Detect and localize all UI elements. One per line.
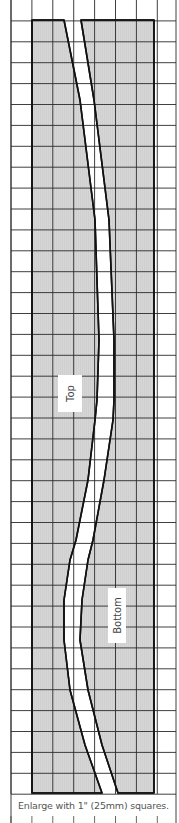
bottom-label-text: Bottom (112, 597, 123, 634)
pattern-diagram (0, 0, 179, 823)
scale-ticks (11, 816, 157, 823)
top-label: Top (58, 375, 82, 412)
top-label-text: Top (65, 385, 76, 402)
bottom-label: Bottom (108, 588, 126, 643)
enlarge-caption: Enlarge with 1" (25mm) squares. (11, 800, 176, 811)
